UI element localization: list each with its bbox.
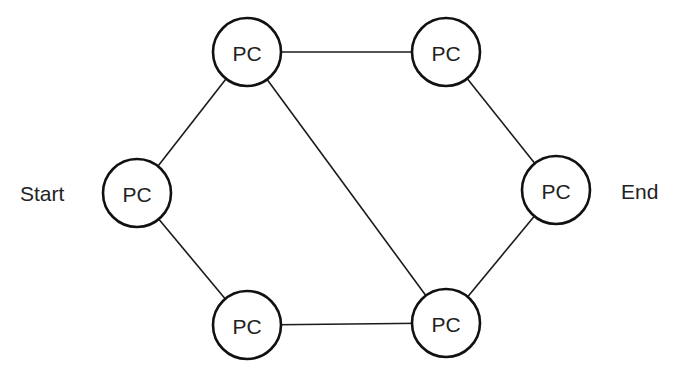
pc-node-label: PC — [541, 180, 570, 203]
pc-node-label: PC — [431, 313, 460, 336]
node-top-right: PC — [412, 18, 480, 86]
node-bottom-right: PC — [412, 289, 480, 357]
pc-node-label: PC — [232, 315, 261, 338]
edges-layer — [137, 52, 556, 325]
node-right: PC — [522, 156, 590, 224]
pc-node-label: PC — [232, 42, 261, 65]
end-label: End — [621, 181, 658, 202]
node-bottom-left: PC — [213, 291, 281, 359]
node-top-left: PC — [213, 18, 281, 86]
start-label: Start — [20, 183, 64, 204]
pc-node-label: PC — [122, 183, 151, 206]
node-left: PC — [103, 159, 171, 227]
graph-canvas: PCPCPCPCPCPC — [0, 0, 676, 383]
network-diagram: PCPCPCPCPCPC Start End — [0, 0, 676, 383]
edge-top-left-bottom-right — [247, 52, 446, 323]
pc-node-label: PC — [431, 42, 460, 65]
